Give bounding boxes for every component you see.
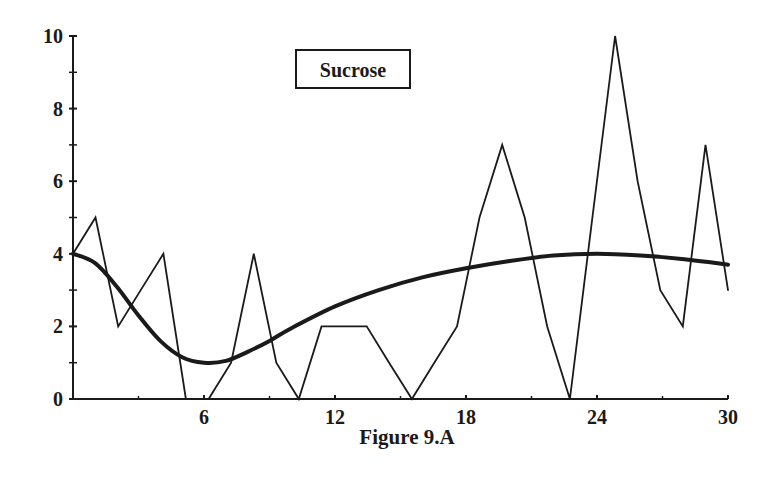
x-tick-label: 18 bbox=[456, 406, 476, 428]
x-tick-label: 12 bbox=[325, 406, 345, 428]
x-tick-label: 24 bbox=[587, 406, 607, 428]
y-tick-label: 2 bbox=[53, 315, 63, 337]
y-tick-label: 10 bbox=[43, 25, 63, 47]
x-tick-label: 30 bbox=[718, 406, 738, 428]
figure-caption: Figure 9.A bbox=[359, 425, 455, 449]
legend: Sucrose bbox=[296, 50, 410, 88]
series-group bbox=[73, 36, 728, 399]
x-tick-label: 6 bbox=[199, 406, 209, 428]
y-tick-label: 8 bbox=[53, 98, 63, 120]
y-tick-label: 6 bbox=[53, 170, 63, 192]
legend-label: Sucrose bbox=[320, 59, 386, 81]
chart-canvas: 0246810612182430 Sucrose Figure 9.A bbox=[0, 0, 779, 484]
y-tick-label: 4 bbox=[53, 243, 63, 265]
y-tick-label: 0 bbox=[53, 388, 63, 410]
data-line bbox=[73, 36, 728, 399]
